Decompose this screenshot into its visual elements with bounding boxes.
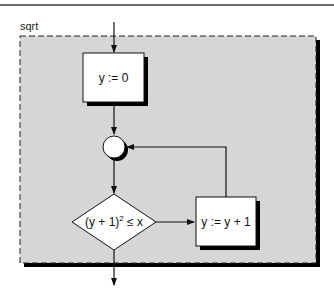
init-label: y := 0 <box>99 71 129 85</box>
test-label: (y + 1)2 ≤ x <box>85 214 143 229</box>
incr-label: y := y + 1 <box>201 215 251 229</box>
sqrt-region <box>20 36 316 263</box>
incr-box: y := y + 1 <box>196 197 260 250</box>
init-box: y := 0 <box>83 53 148 106</box>
flowchart: y := 0 (y + 1)2 ≤ x y := y + 1 <box>0 0 334 301</box>
